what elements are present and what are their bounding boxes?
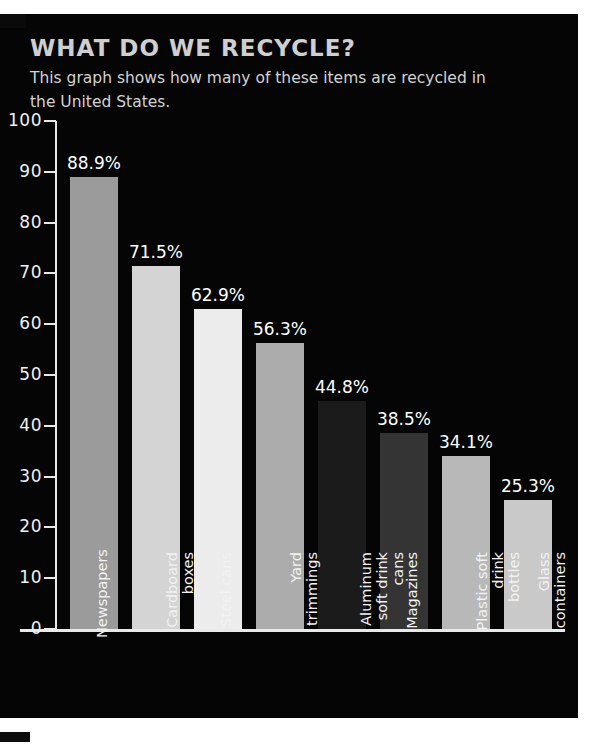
x-axis-category-label: Glass containers <box>504 636 552 722</box>
y-axis-tick-label: 60 <box>0 313 42 333</box>
y-axis-tick-label: 50 <box>0 364 42 384</box>
x-axis-category-label-text: Newspapers <box>94 552 110 638</box>
x-axis-category-label: Aluminum soft drink cans <box>318 636 366 722</box>
y-axis-tick-label: 10 <box>0 567 42 587</box>
x-axis-category-label-text: Magazines <box>404 552 420 638</box>
bar-value-label: 88.9% <box>57 153 131 173</box>
bar-value-label: 44.8% <box>305 377 379 397</box>
y-axis-tick <box>44 577 56 579</box>
x-axis-category-label: Cardboard boxes <box>132 636 180 722</box>
y-axis-tick-label: 0 <box>0 618 42 638</box>
y-axis-tick <box>44 374 56 376</box>
y-axis-tick <box>44 120 56 122</box>
bar-value-label: 34.1% <box>429 432 503 452</box>
x-axis-category-label-text: Yard trimmings <box>288 552 320 638</box>
x-axis-category-label: Magazines <box>380 636 428 722</box>
bar-value-label: 38.5% <box>367 409 441 429</box>
y-axis-tick <box>44 628 56 630</box>
x-axis-category-label: Steel cans <box>194 636 242 722</box>
x-axis-category-label: Newspapers <box>70 636 118 722</box>
y-axis-tick-label: 100 <box>0 110 42 130</box>
chart-panel: WHAT DO WE RECYCLE? This graph shows how… <box>0 14 578 718</box>
y-axis-tick-label: 20 <box>0 516 42 536</box>
y-axis-tick <box>44 476 56 478</box>
y-axis-tick-label: 30 <box>0 466 42 486</box>
scanned-page: WHAT DO WE RECYCLE? This graph shows how… <box>0 0 589 744</box>
x-axis-category-label-text: Steel cans <box>218 552 234 638</box>
y-axis-tick-label: 90 <box>0 161 42 181</box>
bar-value-label: 25.3% <box>491 476 565 496</box>
bar-value-label: 62.9% <box>181 285 255 305</box>
y-axis-tick-label: 80 <box>0 212 42 232</box>
y-axis-tick <box>44 425 56 427</box>
y-axis-tick <box>44 323 56 325</box>
y-axis-tick <box>44 526 56 528</box>
x-axis-category-label-text: Glass containers <box>536 552 568 638</box>
scan-edge-bottom <box>0 732 30 742</box>
y-axis-tick <box>44 272 56 274</box>
bar-value-label: 71.5% <box>119 242 193 262</box>
plot-area: 0102030405060708090100 88.9%71.5%62.9%56… <box>0 14 578 718</box>
bar-value-label: 56.3% <box>243 319 317 339</box>
x-axis-category-label-text: Cardboard boxes <box>164 552 196 638</box>
y-axis-tick-label: 70 <box>0 262 42 282</box>
y-axis-tick <box>44 222 56 224</box>
x-axis-category-label-text: Aluminum soft drink cans <box>358 552 407 638</box>
y-axis-tick-label: 40 <box>0 415 42 435</box>
x-axis-category-label: Plastic soft drink bottles <box>442 636 490 722</box>
x-axis-category-label-text: Plastic soft drink bottles <box>474 552 523 638</box>
y-axis-tick <box>44 171 56 173</box>
x-axis-category-label: Yard trimmings <box>256 636 304 722</box>
